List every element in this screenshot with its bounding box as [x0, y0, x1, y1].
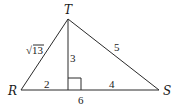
label-rt-length: √13 — [26, 44, 44, 56]
vertex-label-r: R — [7, 84, 17, 98]
label-foot-s-length: 4 — [109, 78, 115, 90]
vertex-label-s: S — [163, 84, 171, 98]
label-r-foot-length: 2 — [44, 78, 50, 90]
label-rs-length: 6 — [78, 94, 84, 106]
triangle-diagram: T R S √13 5 3 2 4 6 — [0, 0, 178, 111]
right-angle-marker — [68, 78, 81, 90]
label-ts-length: 5 — [114, 41, 120, 53]
label-altitude-length: 3 — [70, 52, 76, 64]
vertex-label-t: T — [64, 3, 73, 17]
